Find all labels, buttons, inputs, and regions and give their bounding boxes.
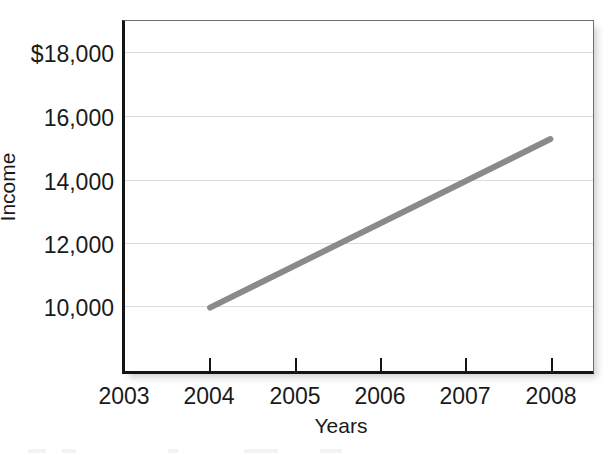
y-tick-label-10000: 10,000 bbox=[0, 295, 114, 322]
line-chart-figure: $18,000 16,000 14,000 12,000 10,000 Inco… bbox=[0, 0, 614, 455]
y-tick-text: 10,000 bbox=[44, 295, 114, 321]
plot-inner bbox=[125, 21, 593, 371]
scan-artifact bbox=[62, 449, 76, 453]
x-tick-label-2003: 2003 bbox=[98, 383, 149, 410]
scan-artifact bbox=[168, 449, 178, 453]
y-tick-text: $18,000 bbox=[31, 41, 114, 67]
y-tick-text: 16,000 bbox=[44, 105, 114, 131]
y-tick-label-18000: $18,000 bbox=[0, 41, 114, 68]
scan-artifact bbox=[28, 449, 46, 453]
plot-area bbox=[122, 20, 594, 374]
y-tick-text: 12,000 bbox=[44, 232, 114, 258]
x-axis-title: Years bbox=[315, 414, 368, 438]
series-line-income bbox=[125, 21, 593, 371]
x-tick-label-2007: 2007 bbox=[439, 383, 490, 410]
income-trend-line bbox=[210, 139, 550, 308]
scan-artifact bbox=[320, 449, 342, 453]
x-tick-label-2006: 2006 bbox=[354, 383, 405, 410]
x-tick-label-2005: 2005 bbox=[269, 383, 320, 410]
x-tick-label-2008: 2008 bbox=[525, 383, 576, 410]
y-tick-text: 14,000 bbox=[44, 169, 114, 195]
x-tick-label-2004: 2004 bbox=[183, 383, 234, 410]
y-tick-label-12000: 12,000 bbox=[0, 232, 114, 259]
y-axis-title: Income bbox=[0, 153, 20, 222]
scan-artifact bbox=[244, 449, 278, 453]
y-tick-label-16000: 16,000 bbox=[0, 105, 114, 132]
